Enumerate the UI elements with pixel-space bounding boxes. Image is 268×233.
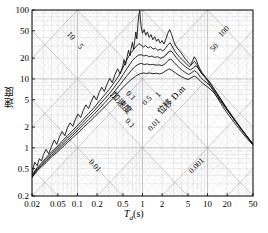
response-spectrum-figure: 0.020.050.10.20.51251020500.20.512510205… <box>0 0 268 233</box>
y-tick-label: 0.5 <box>18 164 30 174</box>
y-tick-label: 2 <box>25 122 30 132</box>
x-tick-label: 5 <box>186 199 191 209</box>
displacement-grid-line <box>32 0 253 10</box>
acceleration-grid-line <box>32 0 253 10</box>
y-axis-label: 速度 <box>2 86 17 108</box>
x-tick-label: 10 <box>203 199 213 209</box>
x-axis-label: Td(s) <box>124 208 144 222</box>
acceleration-grid-line <box>32 0 253 5</box>
y-tick-label: 100 <box>16 5 30 15</box>
x-tick-label: 50 <box>249 199 259 209</box>
displacement-grid-line <box>32 0 253 5</box>
x-axis-label-unit: (s) <box>133 208 144 219</box>
x-tick-label: 0.1 <box>72 199 83 209</box>
y-tick-label: 1 <box>25 143 30 153</box>
x-tick-label: 20 <box>223 199 233 209</box>
tripartite-plot-svg: 0.020.050.10.20.51251020500.20.512510205… <box>0 0 268 233</box>
x-tick-label: 2 <box>160 199 165 209</box>
y-tick-label: 50 <box>20 26 30 36</box>
y-tick-label: 10 <box>20 74 30 84</box>
y-tick-label: 5 <box>25 95 30 105</box>
y-tick-label: 0.2 <box>18 191 29 201</box>
x-tick-label: 0.05 <box>50 199 66 209</box>
x-tick-label: 0.2 <box>91 199 102 209</box>
y-tick-label: 20 <box>20 53 30 63</box>
